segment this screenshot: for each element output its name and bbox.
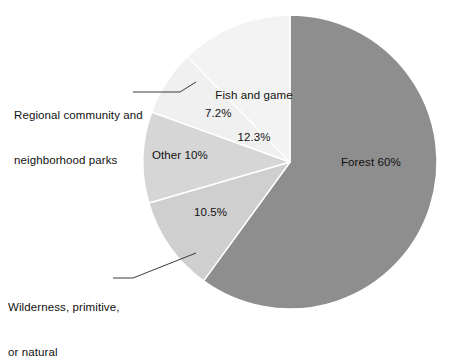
slice-label-other: Other 10% (152, 148, 208, 162)
slice-label-fish-and-game-line1: Fish and game (202, 88, 306, 102)
callout-regional-parks: Regional community and neighborhood park… (14, 78, 143, 198)
slice-label-fish-and-game-line2: 12.3% (202, 130, 306, 144)
slice-label-wilderness-percent: 10.5% (194, 205, 227, 219)
callout-wilderness: Wilderness, primitive, or natural (8, 270, 119, 360)
callout-wilderness-line2: or natural (8, 345, 119, 360)
callout-regional-parks-line1: Regional community and (14, 108, 143, 123)
callout-regional-parks-line2: neighborhood parks (14, 153, 143, 168)
slice-label-regional-parks-percent: 7.2% (205, 106, 232, 120)
callout-wilderness-line1: Wilderness, primitive, (8, 300, 119, 315)
slice-label-forest: Forest 60% (341, 155, 401, 169)
